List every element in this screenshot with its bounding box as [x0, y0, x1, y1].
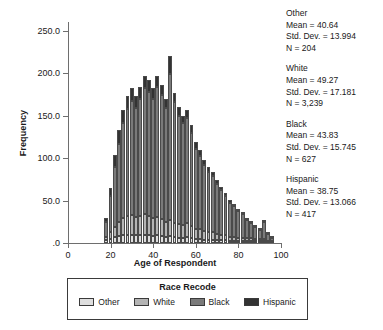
bar-segment-black — [117, 144, 121, 222]
histogram-bar — [253, 225, 257, 243]
x-axis-line — [68, 243, 282, 244]
bar-segment-other — [215, 240, 219, 243]
bar-segment-black — [194, 149, 198, 229]
histogram-bar — [168, 56, 172, 243]
y-tick — [63, 31, 68, 32]
histogram-chart: Frequency .050.0100.0150.0200.0250.0 020… — [0, 0, 383, 330]
legend-item-other[interactable]: Other — [79, 297, 119, 307]
bar-segment-hispanic — [121, 110, 125, 124]
bar-segment-other — [202, 240, 206, 243]
bar-segment-black — [160, 95, 164, 219]
stats-std-dev: Std. Dev. = 15.745 — [286, 142, 383, 154]
bar-segment-other — [134, 235, 138, 243]
y-tick-label: .0 — [52, 238, 60, 248]
bar-segment-other — [121, 235, 125, 243]
legend-label: Other — [98, 297, 119, 307]
histogram-bar — [164, 99, 168, 243]
bar-segment-white — [194, 229, 198, 239]
histogram-bar — [249, 221, 253, 243]
bar-segment-white — [130, 215, 134, 235]
bar-segment-other — [245, 241, 249, 243]
bars-layer — [69, 22, 282, 243]
bar-segment-white — [211, 232, 215, 240]
bar-segment-other — [190, 238, 194, 243]
stats-std-dev: Std. Dev. = 17.181 — [286, 87, 383, 99]
y-tick-label: 100.0 — [37, 153, 60, 163]
bar-segment-other — [155, 235, 159, 243]
y-tick — [63, 116, 68, 117]
bar-segment-black — [219, 190, 223, 234]
bar-segment-other — [262, 241, 266, 243]
bar-segment-hispanic — [147, 80, 151, 92]
bar-segment-other — [228, 241, 232, 243]
bar-segment-hispanic — [177, 107, 181, 116]
stats-mean: Mean = 43.83 — [286, 130, 383, 142]
bar-segment-other — [104, 240, 108, 243]
stats-mean: Mean = 49.27 — [286, 75, 383, 87]
bar-segment-other — [130, 235, 134, 244]
y-axis-title: Frequency — [18, 88, 28, 178]
histogram-bar — [224, 193, 228, 243]
legend-item-hispanic[interactable]: Hispanic — [244, 297, 296, 307]
bar-segment-black — [236, 211, 240, 237]
bar-segment-white — [121, 218, 125, 235]
bar-segment-black — [190, 133, 194, 227]
histogram-bar — [104, 218, 108, 243]
histogram-bar — [194, 142, 198, 243]
bar-segment-other — [211, 240, 215, 243]
stats-group-name: Black — [286, 119, 383, 131]
legend-item-black[interactable]: Black — [190, 297, 230, 307]
bar-segment-black — [126, 109, 130, 216]
bar-segment-black — [232, 206, 236, 237]
bar-segment-white — [147, 216, 151, 236]
stats-std-dev: Std. Dev. = 13.994 — [286, 31, 383, 43]
histogram-bar — [117, 130, 121, 243]
legend: Race Recode OtherWhiteBlackHispanic — [67, 278, 308, 320]
bar-segment-black — [109, 196, 113, 232]
bar-segment-white — [164, 222, 168, 237]
stats-group-hispanic: HispanicMean = 38.75Std. Dev. = 13.066N … — [286, 174, 383, 220]
bar-segment-white — [202, 231, 206, 240]
x-tick — [238, 243, 239, 248]
y-tick — [63, 158, 68, 159]
bar-segment-black — [185, 118, 189, 223]
bar-segment-hispanic — [160, 85, 164, 95]
bar-segment-hispanic — [155, 76, 159, 88]
stats-n: N = 627 — [286, 154, 383, 166]
histogram-bar — [160, 85, 164, 243]
histogram-bar — [177, 107, 181, 243]
bar-segment-black — [155, 87, 159, 216]
legend-title: Race Recode — [68, 282, 307, 292]
bar-segment-black — [147, 92, 151, 216]
bar-segment-white — [266, 241, 270, 243]
bar-segment-other — [117, 236, 121, 243]
bar-segment-white — [134, 217, 138, 236]
bar-segment-other — [126, 235, 130, 244]
bar-segment-black — [241, 214, 245, 238]
legend-item-white[interactable]: White — [134, 297, 175, 307]
x-tick — [68, 243, 69, 248]
bar-segment-black — [151, 99, 155, 218]
bar-segment-hispanic — [130, 88, 134, 101]
stats-mean: Mean = 38.75 — [286, 186, 383, 198]
histogram-bar — [173, 93, 177, 243]
bar-segment-hispanic — [164, 99, 168, 108]
bar-segment-other — [160, 236, 164, 243]
bar-segment-black — [262, 222, 266, 239]
bar-segment-hispanic — [109, 188, 113, 197]
bar-segment-hispanic — [117, 130, 121, 144]
y-tick — [63, 201, 68, 202]
bar-segment-other — [143, 235, 147, 244]
stats-std-dev: Std. Dev. = 13.066 — [286, 197, 383, 209]
bar-segment-black — [228, 203, 232, 237]
bar-segment-other — [113, 237, 117, 243]
bar-segment-other — [224, 240, 228, 243]
histogram-bar — [109, 188, 113, 243]
bar-segment-black — [207, 172, 211, 232]
bar-segment-black — [121, 123, 125, 218]
histogram-bar — [258, 228, 262, 243]
bar-segment-white — [181, 225, 185, 238]
bar-segment-hispanic — [126, 96, 130, 109]
bar-segment-white — [143, 214, 147, 234]
bar-segment-hispanic — [194, 142, 198, 149]
